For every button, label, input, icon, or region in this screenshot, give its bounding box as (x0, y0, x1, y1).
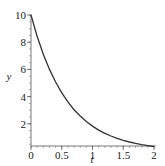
y-tick-label: 6 (21, 63, 27, 75)
line-chart: 00.511.52246810 t y (0, 0, 165, 166)
y-axis-label: y (6, 70, 12, 82)
y-tick-label: 10 (15, 9, 27, 21)
y-tick-label: 4 (21, 91, 27, 103)
y-tick-label: 8 (21, 36, 27, 48)
x-tick-label: 0 (28, 149, 34, 161)
x-tick-label: 1.5 (116, 149, 130, 161)
x-tick-label: 2 (151, 149, 157, 161)
data-line (31, 15, 154, 147)
x-tick-label: 0.5 (55, 149, 69, 161)
y-tick-label: 2 (21, 118, 27, 130)
